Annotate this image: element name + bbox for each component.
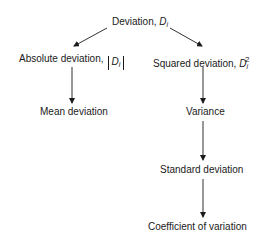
node-squared-deviation: Squared deviation, Di2: [153, 54, 249, 73]
node-absolute-deviation: Absolute deviation,Di: [19, 53, 124, 70]
node-squared-label: Squared deviation,: [153, 58, 239, 69]
node-deviation-subscript: i: [166, 21, 168, 28]
node-absolute-symbol: D: [112, 56, 119, 67]
node-absolute-label: Absolute deviation,: [19, 53, 104, 64]
edge-root-to-absolute: [74, 28, 107, 46]
node-variance: Variance: [186, 106, 225, 118]
node-deviation-label: Deviation,: [112, 16, 159, 27]
edge-root-to-squared: [170, 28, 202, 46]
node-deviation: Deviation, Di: [112, 16, 168, 31]
node-mean-label: Mean deviation: [40, 106, 108, 117]
node-variance-label: Variance: [186, 106, 225, 117]
node-sd-label: Standard deviation: [160, 164, 243, 175]
arrows-layer: [0, 0, 267, 239]
node-squared-subscript: i: [246, 63, 248, 70]
node-cv-label: Coefficient of variation: [148, 221, 247, 232]
absolute-value-bars: Di: [108, 56, 125, 70]
node-mean-deviation: Mean deviation: [40, 106, 108, 118]
node-coefficient-of-variation: Coefficient of variation: [148, 221, 247, 233]
node-absolute-subscript: i: [119, 61, 121, 68]
node-squared-superscript: 2: [245, 55, 249, 64]
node-standard-deviation: Standard deviation: [160, 164, 243, 176]
